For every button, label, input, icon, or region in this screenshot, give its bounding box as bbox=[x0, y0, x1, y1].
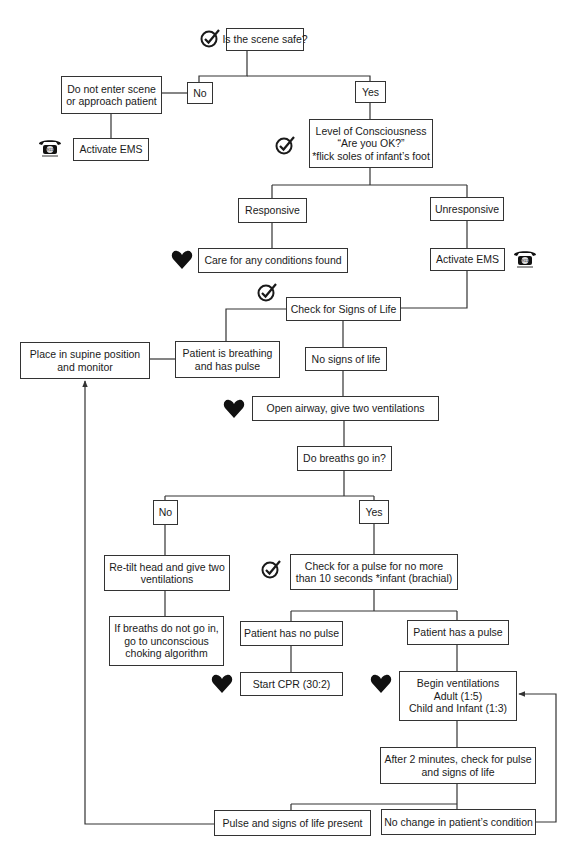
node-text: Level of Consciousness bbox=[316, 125, 427, 138]
node-open-airway: Open airway, give two ventilations bbox=[252, 396, 439, 421]
check-circle-icon bbox=[257, 282, 277, 302]
check-circle-icon bbox=[200, 28, 220, 48]
node-responsive: Responsive bbox=[238, 198, 307, 223]
node-text: Open airway, give two ventilations bbox=[267, 402, 425, 415]
node-text: Pulse and signs of life present bbox=[222, 817, 362, 830]
node-text: Re-tilt head and give two bbox=[109, 561, 225, 574]
node-text: *flick soles of infant’s foot bbox=[312, 150, 430, 163]
node-text: Yes bbox=[362, 86, 379, 99]
node-no-signs-life: No signs of life bbox=[305, 347, 387, 371]
node-choking-algorithm: If breaths do not go in, go to unconscio… bbox=[109, 616, 224, 666]
node-text: Is the scene safe? bbox=[222, 33, 307, 46]
node-no-change: No change in patient’s condition bbox=[381, 809, 536, 835]
node-check-signs-life: Check for Signs of Life bbox=[286, 297, 401, 321]
node-no-breaths: No bbox=[153, 500, 178, 525]
node-text: or approach patient bbox=[66, 95, 156, 108]
node-text: No bbox=[159, 506, 172, 519]
node-text: Yes bbox=[365, 506, 382, 519]
node-text: Place in supine position bbox=[30, 348, 140, 361]
node-text: Patient is breathing bbox=[183, 347, 273, 360]
node-text: Start CPR (30:2) bbox=[253, 678, 331, 691]
node-text: Do breaths go in? bbox=[303, 452, 386, 465]
node-text: ventilations bbox=[141, 573, 194, 586]
check-circle-icon bbox=[261, 559, 281, 579]
heart-icon bbox=[223, 399, 245, 419]
node-text: choking algorithm bbox=[125, 647, 207, 660]
node-text: Adult (1:5) bbox=[434, 690, 482, 703]
node-retilt-head: Re-tilt head and give two ventilations bbox=[104, 555, 230, 591]
node-yes-scene: Yes bbox=[355, 81, 386, 103]
node-start-cpr: Start CPR (30:2) bbox=[240, 672, 343, 696]
node-begin-ventilations: Begin ventilations Adult (1:5) Child and… bbox=[399, 671, 517, 721]
heart-icon bbox=[370, 674, 392, 694]
node-text: Activate EMS bbox=[79, 143, 142, 156]
node-level-consciousness: Level of Consciousness “Are you OK?” *fl… bbox=[309, 119, 433, 168]
node-activate-ems-right: Activate EMS bbox=[430, 248, 505, 271]
node-text: Check for Signs of Life bbox=[291, 303, 397, 316]
node-no-scene: No bbox=[187, 82, 213, 104]
node-has-pulse: Patient has a pulse bbox=[407, 620, 509, 645]
node-text: Responsive bbox=[245, 204, 300, 217]
node-text: Begin ventilations bbox=[417, 677, 499, 690]
telephone-911-icon: 911 bbox=[38, 137, 62, 159]
node-text: and monitor bbox=[57, 361, 112, 374]
node-text: If breaths do not go in, bbox=[114, 622, 219, 635]
node-place-supine: Place in supine position and monitor bbox=[20, 342, 150, 379]
node-no-pulse: Patient has no pulse bbox=[240, 621, 343, 646]
node-check-pulse: Check for a pulse for no more than 10 se… bbox=[290, 554, 458, 590]
node-text: Unresponsive bbox=[435, 203, 499, 216]
node-pulse-present: Pulse and signs of life present bbox=[214, 810, 371, 836]
node-text: After 2 minutes, check for pulse bbox=[384, 753, 531, 766]
svg-text:911: 911 bbox=[47, 147, 54, 152]
telephone-911-icon: 911 bbox=[513, 248, 537, 270]
node-text: Child and Infant (1:3) bbox=[409, 702, 507, 715]
node-text: Care for any conditions found bbox=[204, 254, 341, 267]
node-text: Patient has a pulse bbox=[413, 626, 502, 639]
node-text: Patient has no pulse bbox=[244, 627, 339, 640]
node-breaths-go-in: Do breaths go in? bbox=[297, 446, 392, 471]
node-scene-safe: Is the scene safe? bbox=[226, 28, 304, 51]
connector-lines bbox=[0, 0, 577, 863]
node-text: “Are you OK?” bbox=[337, 137, 404, 150]
node-text: than 10 seconds *infant (brachial) bbox=[296, 572, 452, 585]
node-text: No bbox=[193, 87, 206, 100]
node-text: and has pulse bbox=[195, 360, 260, 373]
heart-icon bbox=[171, 250, 193, 270]
node-text: No change in patient’s condition bbox=[384, 816, 533, 829]
node-care-conditions: Care for any conditions found bbox=[198, 248, 348, 273]
check-circle-icon bbox=[275, 135, 295, 155]
node-text: go to unconscious bbox=[124, 635, 209, 648]
node-unresponsive: Unresponsive bbox=[430, 197, 504, 221]
node-activate-ems-left: Activate EMS bbox=[73, 138, 149, 161]
node-yes-breaths: Yes bbox=[359, 500, 389, 524]
node-text: and signs of life bbox=[422, 766, 495, 779]
heart-icon bbox=[211, 674, 233, 694]
node-after-2-minutes: After 2 minutes, check for pulse and sig… bbox=[380, 747, 536, 784]
node-text: Check for a pulse for no more bbox=[305, 560, 443, 573]
node-breathing-pulse: Patient is breathing and has pulse bbox=[175, 341, 280, 378]
node-do-not-enter: Do not enter scene or approach patient bbox=[61, 76, 162, 114]
node-text: Activate EMS bbox=[436, 253, 499, 266]
node-text: No signs of life bbox=[312, 353, 381, 366]
node-text: Do not enter scene bbox=[67, 83, 156, 96]
svg-text:911: 911 bbox=[522, 258, 529, 263]
